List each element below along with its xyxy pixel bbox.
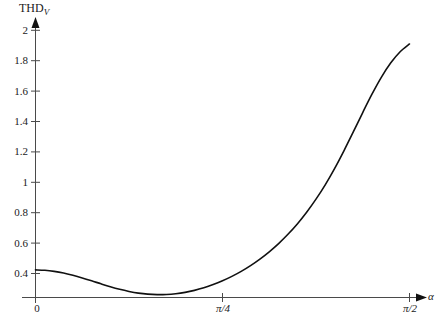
y-axis-title: THDV (19, 2, 49, 17)
y-tick-label-1.6: 1.6 (4, 86, 28, 97)
y-tick-label-1.8: 1.8 (4, 55, 28, 66)
y-axis-title-subscript: V (44, 7, 50, 17)
x-tick-label-pi-over-2: π/2 (394, 303, 426, 314)
y-axis-arrow-icon (32, 17, 40, 28)
chart-canvas (0, 0, 435, 327)
x-tick-label-0: 0 (30, 303, 44, 314)
chart-figure: 0.4 0.6 0.8 1 1.2 1.4 1.6 1.8 2 0 π/4 π/… (0, 0, 435, 327)
y-tick-label-2: 2 (4, 25, 28, 36)
y-axis-title-main: THD (19, 1, 44, 15)
y-tick-label-0.4: 0.4 (4, 268, 28, 279)
y-tick-label-1: 1 (4, 177, 28, 188)
x-tick-label-pi-over-4: π/4 (207, 303, 239, 314)
x-axis-arrow-icon (416, 294, 427, 302)
y-tick-label-0.6: 0.6 (4, 238, 28, 249)
x-axis-title: α (428, 291, 434, 302)
y-tick-label-1.2: 1.2 (4, 146, 28, 157)
thd-curve (36, 44, 410, 295)
y-tick-label-0.8: 0.8 (4, 207, 28, 218)
y-tick-label-1.4: 1.4 (4, 116, 28, 127)
